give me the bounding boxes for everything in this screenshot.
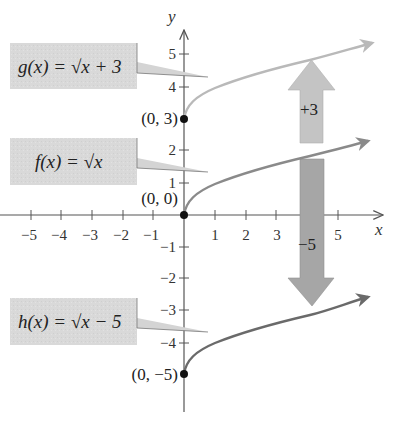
svg-text:−2: −2: [113, 227, 129, 243]
svg-text:4: 4: [169, 79, 177, 95]
curve-g: [184, 43, 372, 119]
svg-text:−2: −2: [160, 270, 176, 286]
point-f-label: (0, 0): [141, 189, 178, 208]
point-h-label: (0, −5): [132, 365, 178, 384]
svg-text:−5: −5: [21, 227, 37, 243]
svg-text:−1: −1: [160, 239, 176, 255]
shift-down-arrow: −5: [288, 159, 334, 306]
point-f-start: [180, 211, 188, 219]
svg-text:5: 5: [169, 46, 177, 62]
shift-up-label: +3: [300, 100, 318, 119]
point-g-start: [180, 115, 188, 123]
callout-h: h(x) = √x − 5: [10, 298, 208, 345]
curve-h: [184, 297, 368, 374]
callout-g: g(x) = √x + 3: [10, 43, 208, 89]
x-tick-labels: −5 −4 −3 −2 −1 1 2 3 5: [21, 227, 342, 243]
callout-f: f(x) = √x: [10, 138, 208, 185]
point-g-label: (0, 3): [141, 109, 178, 128]
svg-text:−3: −3: [160, 302, 176, 318]
shift-down-label: −5: [298, 235, 316, 254]
label-g: g(x) = √x + 3: [18, 56, 122, 78]
label-h: h(x) = √x − 5: [18, 311, 122, 333]
svg-text:−3: −3: [82, 227, 98, 243]
svg-text:2: 2: [242, 227, 250, 243]
x-axis-name: x: [374, 220, 383, 239]
point-h-start: [180, 370, 188, 378]
sqrt-transformations-graph: x y −5 −4 −3 −2 −1 1 2 3 5 5 4: [0, 0, 395, 423]
svg-text:3: 3: [273, 227, 281, 243]
shift-up-arrow: +3: [288, 60, 335, 143]
curve-f: [184, 141, 368, 215]
svg-text:5: 5: [334, 227, 342, 243]
label-f: f(x) = √x: [35, 151, 103, 173]
y-axis-name: y: [166, 7, 176, 26]
svg-text:−4: −4: [51, 227, 67, 243]
svg-text:2: 2: [169, 142, 177, 158]
svg-text:−4: −4: [160, 335, 176, 351]
svg-text:1: 1: [211, 227, 219, 243]
svg-text:−1: −1: [143, 227, 159, 243]
